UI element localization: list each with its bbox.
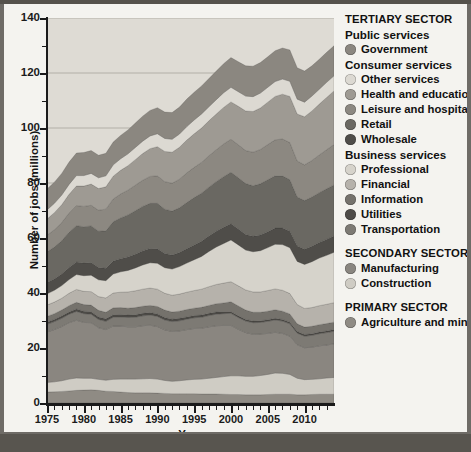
legend-swatch-icon (345, 134, 356, 145)
y-tick-major (40, 293, 47, 295)
y-tick-major (40, 73, 47, 75)
x-axis-title: Year (47, 428, 334, 432)
y-tick-label: 100 (10, 121, 40, 133)
legend-item-label: Government (361, 42, 428, 57)
legend-swatch-icon (345, 44, 356, 55)
x-tick-minor (312, 406, 313, 410)
legend-item-label: Manufacturing (361, 261, 439, 276)
legend-item[interactable]: Retail (345, 117, 467, 132)
legend-item[interactable]: Leisure and hospitality (345, 102, 467, 117)
x-tick-label: 2005 (256, 413, 280, 425)
y-tick-minor (42, 211, 47, 212)
x-tick-minor (187, 406, 188, 410)
area-series-svg (47, 18, 334, 403)
y-tick-minor (42, 156, 47, 157)
legend-item[interactable]: Transportation (345, 222, 467, 237)
x-tick-minor (224, 406, 225, 410)
legend-item-label: Transportation (361, 222, 440, 237)
x-tick-minor (275, 406, 276, 410)
legend-item-label: Leisure and hospitality (361, 102, 467, 117)
y-tick-minor (42, 101, 47, 102)
x-tick-major (268, 406, 270, 413)
y-tick-minor (42, 266, 47, 267)
chart-screenshot: Number of jobs (millions) 02040608010012… (0, 0, 471, 452)
y-tick-label: 120 (10, 66, 40, 78)
legend-group-heading: Business services (345, 147, 467, 162)
legend-swatch-icon (345, 209, 356, 220)
legend-spacer (340, 237, 467, 246)
legend-sector-heading: TERTIARY SECTOR (345, 12, 467, 27)
legend-item[interactable]: Agriculture and mining (345, 315, 467, 330)
x-tick-major (84, 406, 86, 413)
legend-group-heading: Consumer services (345, 57, 467, 72)
x-tick-minor (297, 406, 298, 410)
x-tick-minor (135, 406, 136, 410)
y-tick-major (40, 348, 47, 350)
x-tick-label: 1985 (108, 413, 132, 425)
legend-item-label: Health and education (361, 87, 467, 102)
legend-item[interactable]: Wholesale (345, 132, 467, 147)
x-tick-minor (143, 406, 144, 410)
legend-swatch-icon (345, 179, 356, 190)
legend-item[interactable]: Information (345, 192, 467, 207)
legend-sector-heading: SECONDARY SECTOR (345, 246, 467, 261)
legend-item[interactable]: Health and education (345, 87, 467, 102)
y-tick-major (40, 128, 47, 130)
x-tick-label: 1990 (145, 413, 169, 425)
legend-swatch-icon (345, 164, 356, 175)
x-tick-minor (62, 406, 63, 410)
y-tick-minor (42, 321, 47, 322)
legend-item[interactable]: Manufacturing (345, 261, 467, 276)
legend-swatch-icon (345, 263, 356, 274)
y-tick-label: 40 (10, 286, 40, 298)
x-tick-label: 1980 (72, 413, 96, 425)
x-tick-minor (113, 406, 114, 410)
x-tick-major (47, 406, 49, 413)
legend-item-label: Wholesale (361, 132, 417, 147)
y-tick-label: 20 (10, 341, 40, 353)
x-tick-minor (172, 406, 173, 410)
x-tick-major (231, 406, 233, 413)
x-tick-major (121, 406, 123, 413)
legend-item[interactable]: Professional (345, 162, 467, 177)
y-tick-label: 80 (10, 176, 40, 188)
x-tick-major (157, 406, 159, 413)
legend-item[interactable]: Government (345, 42, 467, 57)
x-axis-line (46, 403, 335, 406)
y-tick-label: 140 (10, 11, 40, 23)
y-tick-major (40, 18, 47, 20)
y-axis-tick-labels: 020406080100120140 (4, 4, 40, 432)
x-tick-minor (327, 406, 328, 410)
x-tick-label: 1995 (182, 413, 206, 425)
legend-item[interactable]: Financial (345, 177, 467, 192)
y-tick-minor (42, 46, 47, 47)
y-tick-major (40, 403, 47, 405)
x-tick-minor (54, 406, 55, 410)
legend-sector-heading: PRIMARY SECTOR (345, 300, 467, 315)
legend-swatch-icon (345, 104, 356, 115)
x-tick-minor (253, 406, 254, 410)
chart-area: Number of jobs (millions) 02040608010012… (4, 4, 340, 432)
legend-item[interactable]: Utilities (345, 207, 467, 222)
y-tick-major (40, 238, 47, 240)
x-tick-minor (165, 406, 166, 410)
bottom-border-band (0, 434, 471, 452)
x-tick-minor (91, 406, 92, 410)
x-tick-minor (238, 406, 239, 410)
chart-legend: TERTIARY SECTORPublic servicesGovernment… (340, 4, 467, 432)
legend-item-label: Utilities (361, 207, 402, 222)
y-tick-label: 60 (10, 231, 40, 243)
y-tick-minor (42, 376, 47, 377)
y-tick-label: 0 (10, 396, 40, 408)
legend-swatch-icon (345, 89, 356, 100)
x-tick-minor (319, 406, 320, 410)
x-tick-label: 1975 (35, 413, 59, 425)
legend-item[interactable]: Other services (345, 72, 467, 87)
x-tick-minor (106, 406, 107, 410)
legend-swatch-icon (345, 317, 356, 328)
x-tick-minor (290, 406, 291, 410)
legend-item-label: Financial (361, 177, 410, 192)
legend-item[interactable]: Construction (345, 276, 467, 291)
x-tick-label: 2010 (292, 413, 316, 425)
x-tick-minor (216, 406, 217, 410)
